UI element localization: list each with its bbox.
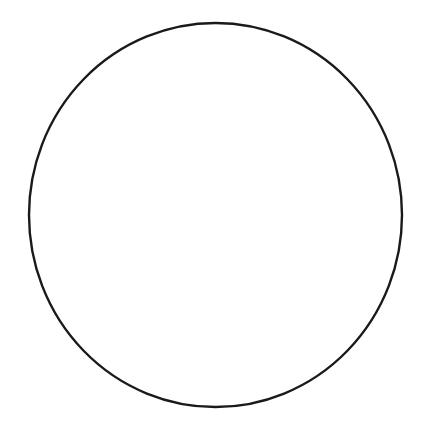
circle-outline	[29, 23, 402, 407]
fraction-circle-diagram: Fraction circle divided into twelve equa…	[0, 0, 421, 434]
fraction-circle-figure: Fraction circle divided into twelve equa…	[0, 0, 421, 434]
